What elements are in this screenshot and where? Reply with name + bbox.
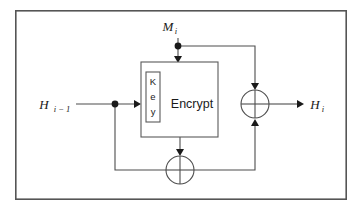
key-block-letter-y: y <box>151 106 156 117</box>
hash-round-diagram: M i H i − 1 H i Encrypt K e y <box>0 0 360 214</box>
key-block-letter-k: K <box>150 76 157 87</box>
chain-output-subscript: i <box>322 104 325 114</box>
arrowhead-xor-bottom-to-xor-right <box>251 119 259 126</box>
message-input-label: M <box>162 19 175 34</box>
encrypt-block-label: Encrypt <box>171 97 214 111</box>
junction-dot-chain <box>112 101 119 108</box>
arrowhead-encrypt-to-xor-bottom <box>176 149 184 156</box>
junction-dot-message <box>175 43 182 50</box>
chain-input-label: H <box>38 97 49 112</box>
arrowhead-message-to-xor-right <box>251 83 259 90</box>
key-block-letter-e: e <box>150 91 155 102</box>
figure-canvas: M i H i − 1 H i Encrypt K e y <box>0 0 360 214</box>
chain-output-label: H <box>309 97 320 112</box>
message-input-subscript: i <box>175 26 178 36</box>
arrowhead-xor-right-to-chain-output <box>297 100 304 108</box>
chain-input-subscript: i − 1 <box>54 104 71 114</box>
arrowhead-chain-input-to-key <box>134 100 141 108</box>
